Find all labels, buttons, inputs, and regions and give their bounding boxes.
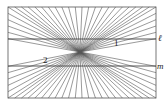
angle-label-1: 1 xyxy=(114,39,119,48)
label-line-m: m xyxy=(157,62,164,71)
angle-label-2: 2 xyxy=(43,56,48,65)
label-line-ell: ℓ xyxy=(158,34,162,43)
radiating-lines xyxy=(8,7,156,98)
hering-illusion-diagram xyxy=(0,0,164,103)
